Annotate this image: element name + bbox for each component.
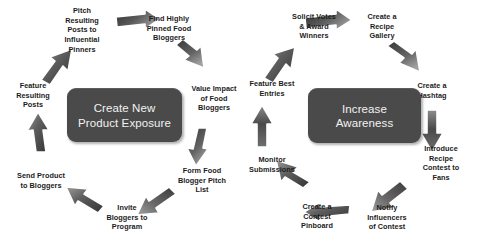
hub-left-label: Create New Product Exposure [67, 101, 182, 130]
hub-right-label: Increase Awareness [308, 102, 421, 131]
node-form-pitch-list: Form Food Blogger Pitch List [172, 166, 232, 195]
node-solicit-votes: Solicit Votes & Award Winners [286, 12, 342, 41]
arrow-feature-to-solicit [264, 47, 295, 83]
hub-increase-awareness: Increase Awareness [308, 88, 421, 143]
node-introduce-contest: Introduce Recipe Contest to Fans [414, 144, 468, 183]
node-send-product: Send Product to Bloggers [11, 171, 71, 190]
cycle-create-new-product-exposure: Pitch Resulting Posts to Influential Pin… [0, 0, 242, 248]
arrow-send-to-feature [27, 112, 49, 152]
node-feature-resulting-posts: Feature Resulting Posts [8, 81, 58, 110]
node-invite-bloggers: Invite Bloggers to Program [100, 203, 154, 232]
arrow-invite-to-send [66, 187, 104, 213]
node-value-impact: Value Impact of Food Bloggers [186, 84, 242, 113]
cycle-increase-awareness: Solicit Votes & Award Winners Create a R… [242, 0, 484, 248]
arrow-gallery-to-hashtag [387, 41, 420, 72]
node-feature-best-entries: Feature Best Entries [242, 79, 302, 98]
diagram-canvas: Pitch Resulting Posts to Influential Pin… [0, 0, 484, 248]
node-monitor-submissions: Monitor Submissions [242, 155, 302, 174]
arrow-find-to-value [176, 39, 204, 68]
node-find-highly-pinned: Find Highly Pinned Food Bloggers [140, 14, 198, 43]
node-notify-influencers: Notify Influencers of Contest [358, 203, 416, 232]
arrow-value-to-form [187, 128, 208, 166]
arrow-feature-to-pitch [41, 49, 72, 85]
hub-create-new-product-exposure: Create New Product Exposure [67, 88, 182, 142]
arrow-monitor-to-feature [251, 105, 273, 147]
node-pitch-resulting-posts: Pitch Resulting Posts to Influential Pin… [56, 6, 108, 54]
node-create-recipe-gallery: Create a Recipe Gallery [356, 12, 408, 41]
node-create-contest-pinboard: Create a Contest Pinboard [292, 202, 342, 231]
